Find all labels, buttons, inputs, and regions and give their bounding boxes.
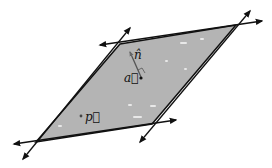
point-p xyxy=(80,115,83,118)
point-a xyxy=(139,76,142,79)
point-p-label: p⃗ xyxy=(85,110,100,124)
normal-label: n̂ xyxy=(134,48,142,62)
point-a-label: a⃗ xyxy=(124,71,138,85)
plane-diagram: n̂ a⃗ p⃗ xyxy=(0,0,272,168)
